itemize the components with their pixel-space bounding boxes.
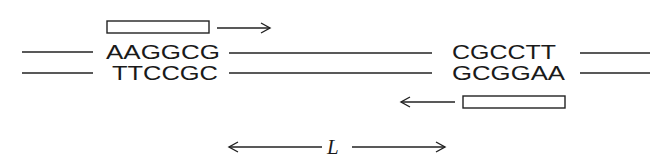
top-strand: AAGGCG CGCCTT [22,40,650,63]
forward-primer [107,21,270,33]
bottom-left-sequence: TTCCGC [112,61,218,84]
reverse-primer-box [463,96,565,108]
distance-indicator: L [229,135,445,159]
reverse-primer [401,96,565,108]
bottom-strand: TTCCGC GCGGAA [22,61,650,84]
forward-primer-box [107,21,209,33]
dna-primer-diagram: AAGGCG CGCCTT TTCCGC GCGGAA L [0,0,671,165]
top-left-sequence: AAGGCG [106,40,220,63]
distance-label: L [326,135,339,159]
top-right-sequence: CGCCTT [452,40,556,63]
bottom-right-sequence: GCGGAA [452,61,565,84]
